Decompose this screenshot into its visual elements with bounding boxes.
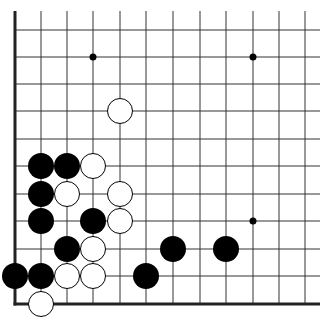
- white-stone: [108, 99, 133, 124]
- go-board: [0, 0, 327, 323]
- white-stone: [81, 237, 106, 262]
- black-stone: [2, 263, 28, 289]
- white-stone: [108, 209, 133, 234]
- black-stone: [133, 263, 159, 289]
- star-point-icon: [250, 54, 257, 61]
- star-point-icon: [90, 54, 97, 61]
- black-stone: [54, 236, 80, 262]
- white-stone: [81, 264, 106, 289]
- black-stone: [28, 263, 54, 289]
- black-stone: [54, 153, 80, 179]
- white-stone: [108, 182, 133, 207]
- black-stone: [28, 208, 54, 234]
- white-stone: [29, 292, 54, 317]
- black-stone: [80, 208, 106, 234]
- white-stone: [81, 154, 106, 179]
- black-stone: [160, 236, 186, 262]
- black-stone: [28, 181, 54, 207]
- white-stone: [55, 182, 80, 207]
- black-stone: [28, 153, 54, 179]
- star-point-icon: [250, 218, 257, 225]
- black-stone: [213, 236, 239, 262]
- white-stone: [55, 264, 80, 289]
